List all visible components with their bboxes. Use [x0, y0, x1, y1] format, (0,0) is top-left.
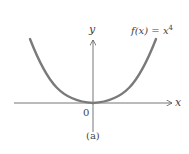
caption: (a)	[86, 130, 100, 141]
origin-label: 0	[83, 107, 89, 118]
exponent: 4	[169, 24, 174, 32]
x-axis-label: x	[175, 96, 182, 109]
function-label: f(x) = x4	[130, 24, 174, 36]
chart: x y 0 f(x) = x4 (a)	[0, 0, 189, 154]
y-axis-label: y	[88, 23, 96, 36]
